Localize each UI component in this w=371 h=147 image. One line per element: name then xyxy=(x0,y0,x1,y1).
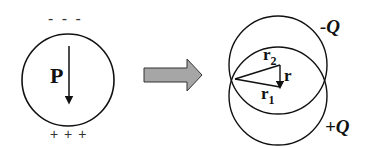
positive-charge-label: +Q xyxy=(325,116,350,137)
charged-spheres: r2 r r1 -Q +Q xyxy=(229,16,350,145)
polarized-sphere: P - - - + + + xyxy=(22,10,114,142)
polarization-label: P xyxy=(50,63,63,88)
r1-vector xyxy=(235,79,280,87)
positive-surface-charges: + + + xyxy=(50,126,87,142)
diagram-canvas: P - - - + + + r2 r r1 -Q +Q xyxy=(0,0,371,147)
positive-sphere-outline xyxy=(229,47,327,145)
sphere-outline xyxy=(22,34,114,126)
r2-label: r2 xyxy=(263,45,277,68)
right-arrow-icon xyxy=(144,59,202,91)
r1-label: r1 xyxy=(261,84,275,107)
negative-charge-label: -Q xyxy=(320,16,340,37)
r-label: r xyxy=(284,66,292,85)
negative-surface-charges: - - - xyxy=(48,10,83,27)
